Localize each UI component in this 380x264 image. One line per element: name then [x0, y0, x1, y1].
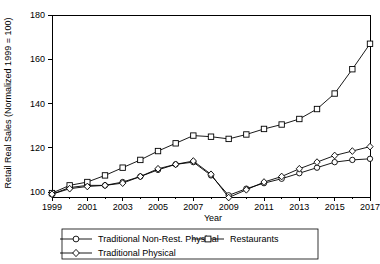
y-axis-title: Retail Real Sales (Normalized 1999 = 100…: [3, 18, 13, 189]
data-point-square: [332, 91, 337, 96]
y-axis-ticks: 100120140160180: [30, 10, 52, 197]
x-axis-ticks: 1999200120032005200720092011201320152017: [42, 197, 380, 212]
data-point-square: [367, 41, 372, 46]
x-tick-label: 2007: [183, 202, 203, 212]
x-tick-label: 1999: [42, 202, 62, 212]
data-point-square: [226, 136, 231, 141]
data-point-diamond: [102, 182, 108, 189]
chart-figure: 100120140160180 199920012003200520072009…: [0, 0, 380, 264]
legend-marker-square: [205, 236, 211, 242]
x-axis-title: Year: [204, 213, 222, 223]
legend-item-diamond[interactable]: Traditional Physical: [60, 248, 176, 258]
data-point-square: [350, 67, 355, 72]
legend-marker-diamond: [73, 249, 80, 256]
data-point-square: [314, 106, 319, 111]
data-point-square: [208, 134, 213, 139]
line-chart: 100120140160180 199920012003200520072009…: [0, 0, 380, 264]
data-point-diamond: [349, 148, 355, 155]
series-diamond: [49, 143, 373, 201]
data-point-square: [155, 148, 160, 153]
legend-marker-circle: [73, 236, 79, 242]
x-tick-label: 2003: [113, 202, 133, 212]
data-point-square: [102, 173, 107, 178]
x-tick-label: 2015: [325, 202, 345, 212]
data-point-square: [261, 126, 266, 131]
x-tick-label: 2001: [77, 202, 97, 212]
legend-label: Restaurants: [230, 234, 279, 244]
y-tick-label: 140: [30, 99, 45, 109]
x-tick-label: 2017: [360, 202, 380, 212]
data-point-diamond: [367, 143, 373, 150]
data-point-circle: [367, 156, 372, 161]
data-point-square: [279, 122, 284, 127]
y-tick-label: 100: [30, 187, 45, 197]
x-tick-label: 2013: [289, 202, 309, 212]
data-point-square: [120, 165, 125, 170]
data-point-circle: [332, 159, 337, 164]
data-point-square: [191, 133, 196, 138]
y-tick-label: 160: [30, 54, 45, 64]
chart-legend: Traditional Non-Rest. PhysicalRestaurant…: [60, 229, 318, 259]
y-tick-label: 120: [30, 143, 45, 153]
data-point-square: [138, 157, 143, 162]
x-tick-label: 2011: [254, 202, 273, 212]
data-point-diamond: [173, 161, 179, 168]
plot-frame: [52, 15, 370, 197]
plot-border: [52, 15, 370, 197]
legend-label: Traditional Physical: [98, 248, 176, 258]
series-layer: [49, 41, 373, 201]
x-tick-label: 2005: [148, 202, 168, 212]
data-point-square: [297, 116, 302, 121]
data-point-square: [173, 141, 178, 146]
data-point-diamond: [314, 159, 320, 166]
y-tick-label: 180: [30, 10, 45, 20]
data-point-diamond: [137, 173, 143, 180]
data-point-circle: [350, 157, 355, 162]
x-tick-label: 2009: [219, 202, 239, 212]
data-point-square: [244, 132, 249, 137]
data-point-diamond: [332, 152, 338, 159]
